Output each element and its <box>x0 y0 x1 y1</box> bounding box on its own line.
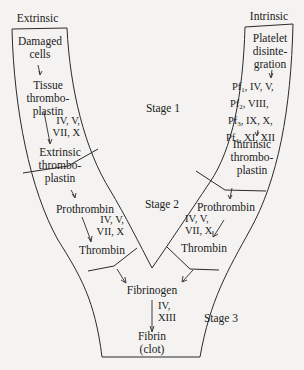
intrinsic-thromboplastin: Intrinsic thrombo- plastin <box>222 138 282 177</box>
int-thrombo-line1: Intrinsic <box>222 138 282 151</box>
extrinsic-header: Extrinsic <box>10 12 65 25</box>
stage2-label: Stage 2 <box>137 198 187 211</box>
pf2-line: Pf2, VIII, <box>230 97 300 114</box>
pf1-line: Pf1, IV, V, <box>230 80 300 97</box>
int-thrombo-line3: plastin <box>222 164 282 177</box>
damaged-cells-line1: Damaged <box>14 35 66 48</box>
fibrin-line1: Fibrin <box>125 330 179 343</box>
extrinsic-thromboplastin: Extrinsic thrombo- plastin <box>30 146 90 185</box>
int-thrombo-line2: thrombo- <box>222 151 282 164</box>
intrinsic-stage2-factors: IV, V, VII, X <box>185 213 221 237</box>
common-factors-line1: IV, <box>158 300 188 312</box>
intrinsic-header: Intrinsic <box>240 10 298 23</box>
extrinsic-stage2-factors: IV, V, VII, X <box>88 214 124 238</box>
ext-thrombo-line2: thrombo- <box>30 159 90 172</box>
fibrin-line2: (clot) <box>125 343 179 356</box>
extrinsic-thrombin: Thrombin <box>78 244 126 257</box>
tissue-thromboplastin: Tissue thrombo- plastin <box>18 79 78 118</box>
factors-line1: IV, V, <box>44 115 80 127</box>
tissue-line2: thrombo- <box>18 92 78 105</box>
factors-line1: IV, V, <box>185 213 221 225</box>
fibrin-clot: Fibrin (clot) <box>125 330 179 356</box>
tissue-line1: Tissue <box>18 79 78 92</box>
platelet-disintegration: Platelet disinte- gration <box>246 32 294 71</box>
factors-line2: VII, X <box>185 225 221 237</box>
common-factors: IV, XIII <box>158 300 188 324</box>
factors-line2: VII, X <box>44 127 80 139</box>
platelet-line1: Platelet <box>246 32 294 45</box>
factors-line1: IV, V, <box>88 214 124 226</box>
stage1-label: Stage 1 <box>138 102 188 115</box>
ext-thrombo-line3: plastin <box>30 172 90 185</box>
fibrinogen: Fibrinogen <box>118 284 186 297</box>
right-arm-top-edge <box>245 24 293 27</box>
pf3-line: Pf3, IX, X, <box>228 114 300 131</box>
ext-thrombo-line1: Extrinsic <box>30 146 90 159</box>
platelet-line3: gration <box>246 58 294 71</box>
common-factors-line2: XIII <box>158 312 188 324</box>
extrinsic-stage1-factors: IV, V, VII, X <box>44 115 80 139</box>
damaged-cells: Damaged cells <box>14 35 66 61</box>
left-arm-top-edge <box>12 28 67 29</box>
platelet-line2: disinte- <box>246 45 294 58</box>
factors-line2: VII, X <box>88 226 124 238</box>
arrowhead <box>39 71 42 75</box>
intrinsic-thrombin: Thrombin <box>180 242 228 255</box>
stage3-label: Stage 3 <box>196 312 246 325</box>
damaged-cells-line2: cells <box>14 48 66 61</box>
